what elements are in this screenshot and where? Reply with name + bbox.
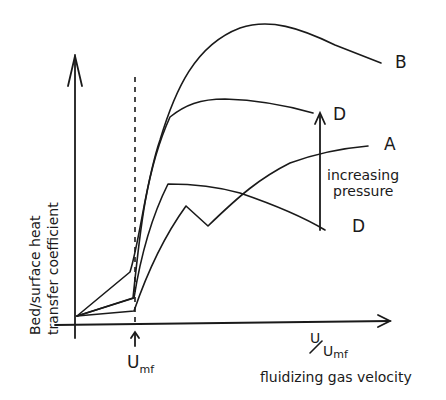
umf-label: Umf (127, 352, 155, 376)
label-curve-D-upper: D (333, 104, 346, 124)
y-axis-label: Bed/surface heat transfer coefficient (27, 202, 61, 335)
heat-transfer-diagram: B D A D increasing pressure Bed/surface … (0, 0, 446, 400)
annotation-increasing: increasing (327, 167, 399, 183)
annotation-pressure: pressure (333, 183, 393, 199)
label-curve-D-lower: D (352, 216, 365, 236)
curve-D-lower (77, 184, 325, 316)
x-axis (55, 321, 390, 325)
label-curve-A: A (384, 134, 396, 154)
y-axis-label-line1: Bed/surface heat (27, 215, 43, 335)
x-axis-label: fluidizing gas velocity (260, 369, 412, 385)
y-axis-label-line2: transfer coefficient (45, 202, 61, 335)
curve-A (77, 146, 368, 316)
label-curve-B: B (395, 52, 407, 72)
x-ratio-denominator: Umf (323, 343, 349, 361)
